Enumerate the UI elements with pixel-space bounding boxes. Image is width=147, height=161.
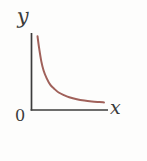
y-axis-label: y: [16, 6, 29, 28]
hyperbola-figure: y x 0: [0, 0, 147, 161]
hyperbola-curve: [38, 36, 104, 102]
origin-label: 0: [15, 108, 25, 124]
x-axis-label: x: [110, 98, 121, 117]
